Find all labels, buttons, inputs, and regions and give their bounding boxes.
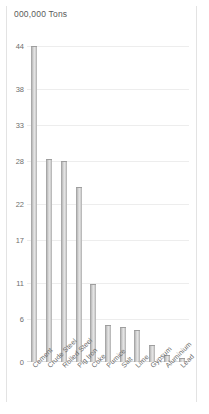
- bar-slot[interactable]: [42, 46, 57, 362]
- bar-slot[interactable]: [86, 46, 101, 362]
- y-axis-tick-label: 22: [2, 200, 24, 209]
- y-axis-tick-label: 38: [2, 85, 24, 94]
- bar[interactable]: [61, 161, 67, 362]
- bar-slot[interactable]: [115, 46, 130, 362]
- bar[interactable]: [76, 187, 82, 362]
- y-axis-tick-label: 11: [2, 279, 24, 288]
- bar-slot[interactable]: [145, 46, 160, 362]
- chart-title: 000,000 Tons: [14, 9, 67, 19]
- x-axis-tick-labels: CementCrude SteelRolled SteelPig IronCok…: [27, 364, 189, 412]
- frame-right-border: [196, 6, 197, 402]
- y-axis-tick-label: 0: [2, 358, 24, 367]
- y-axis-tick-label: 33: [2, 121, 24, 130]
- y-axis-tick-labels: 4438332822171160: [0, 46, 24, 362]
- bar-slot[interactable]: [159, 46, 174, 362]
- bar-slot[interactable]: [130, 46, 145, 362]
- bar-chart: 000,000 Tons 4438332822171160 CementCrud…: [0, 0, 209, 414]
- y-axis-tick-label: 17: [2, 235, 24, 244]
- bar[interactable]: [31, 46, 37, 362]
- plot-area: [27, 46, 189, 362]
- bar-slot[interactable]: [56, 46, 71, 362]
- bar[interactable]: [46, 159, 52, 362]
- bar-series: [27, 46, 189, 362]
- bar-slot[interactable]: [71, 46, 86, 362]
- bar-slot[interactable]: [101, 46, 116, 362]
- y-axis-tick-label: 6: [2, 314, 24, 323]
- y-axis-tick-label: 44: [2, 42, 24, 51]
- y-axis-tick-label: 28: [2, 156, 24, 165]
- bar-slot[interactable]: [27, 46, 42, 362]
- bar-slot[interactable]: [174, 46, 189, 362]
